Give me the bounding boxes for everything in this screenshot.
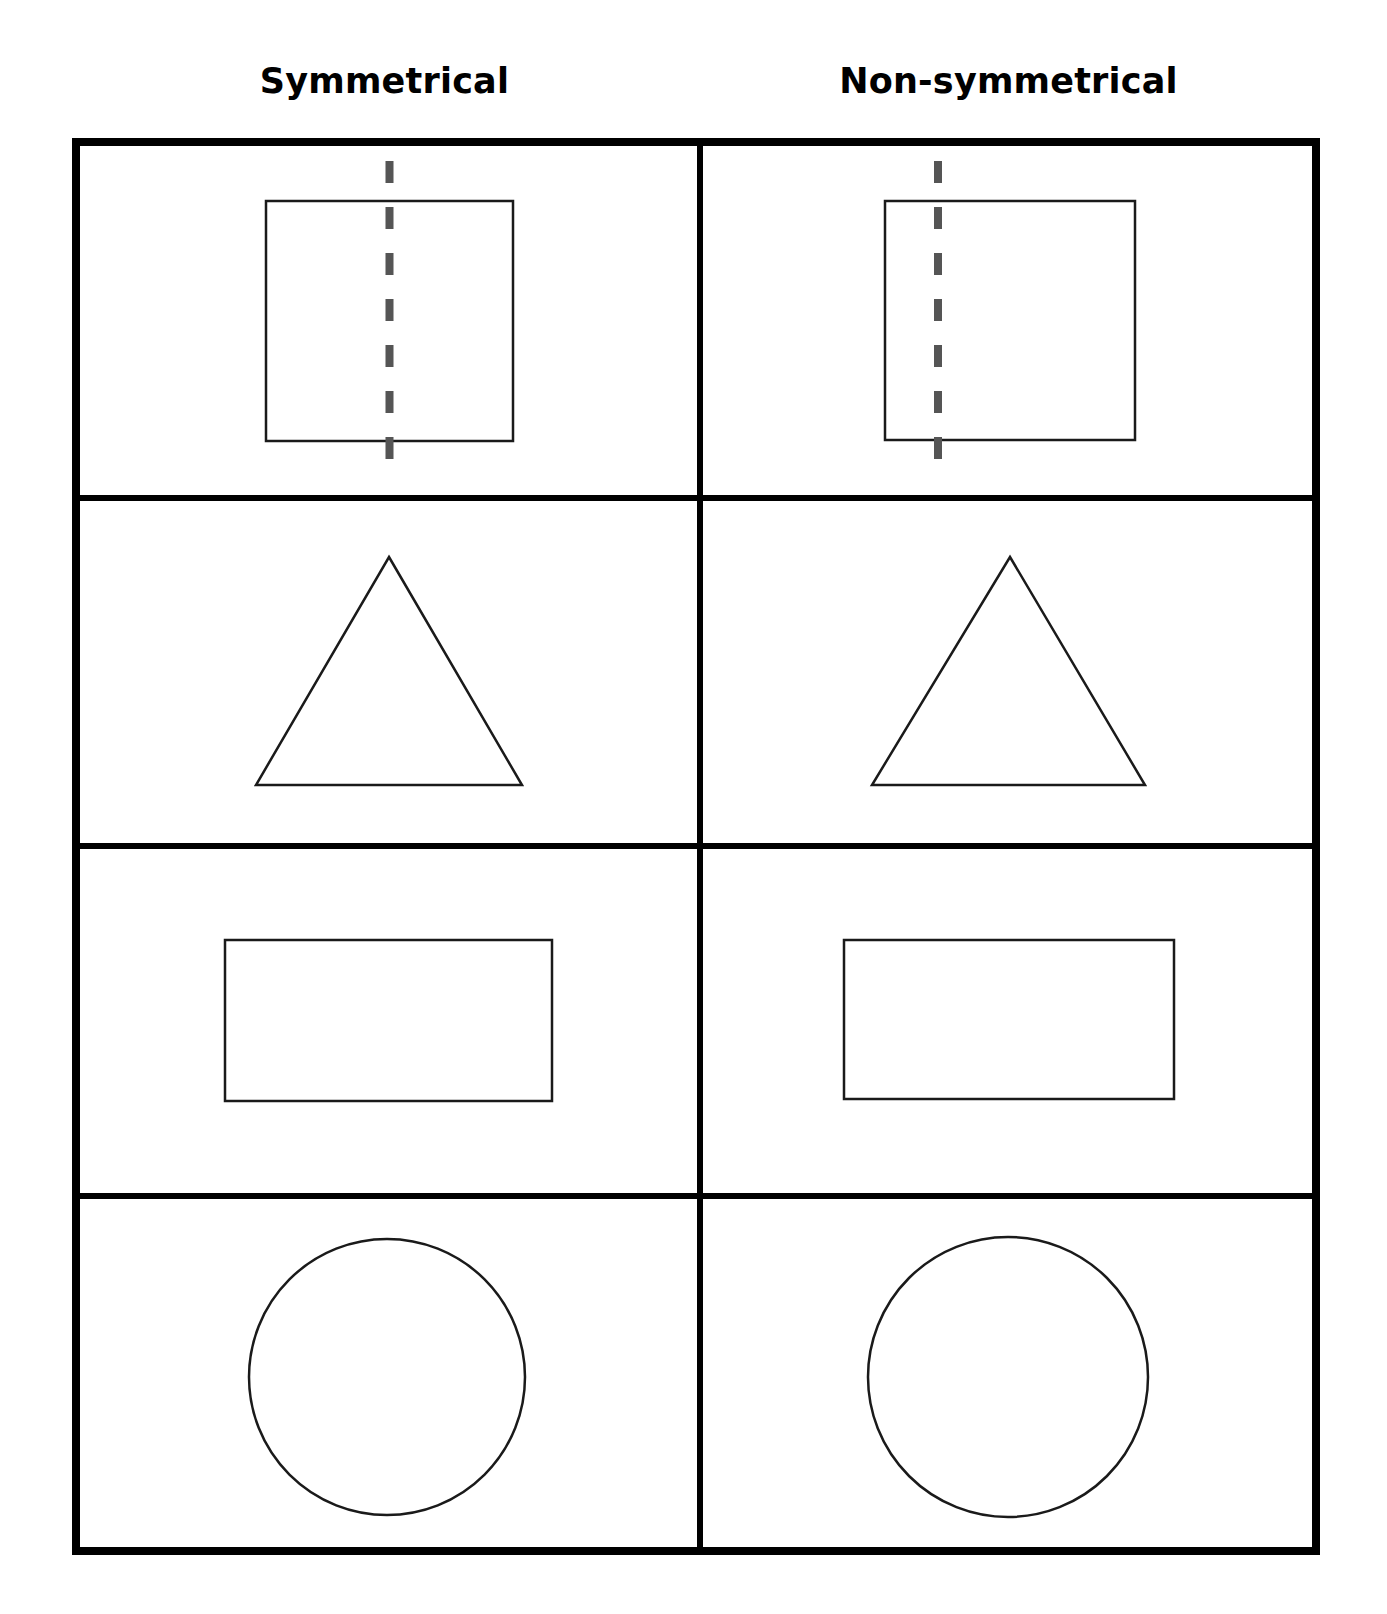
shape-circle-non-symmetrical-wrapper <box>858 1227 1158 1527</box>
triangle-icon <box>239 542 539 802</box>
triangle-icon <box>858 542 1158 802</box>
cell-row3-non-symmetrical[interactable] <box>703 849 1312 1193</box>
rectangle-icon <box>838 931 1178 1111</box>
cell-row4-non-symmetrical[interactable] <box>703 1199 1312 1555</box>
shape-rectangle-symmetrical-wrapper <box>219 931 559 1111</box>
shape-triangle-non-symmetrical-wrapper <box>858 542 1158 802</box>
shape-square-symmetrical-wrapper <box>224 156 554 486</box>
column-header-symmetrical-label: Symmetrical <box>260 61 509 101</box>
square-with-center-line-icon <box>224 156 554 486</box>
symmetry-worksheet: Symmetrical Non-symmetrical <box>0 0 1387 1614</box>
cell-row2-non-symmetrical[interactable] <box>703 501 1312 843</box>
cell-row1-non-symmetrical[interactable] <box>703 146 1312 495</box>
cell-row3-symmetrical[interactable] <box>80 849 697 1193</box>
column-header-non-symmetrical-label: Non-symmetrical <box>839 61 1177 101</box>
cell-row2-symmetrical[interactable] <box>80 501 697 843</box>
cell-row1-symmetrical[interactable] <box>80 146 697 495</box>
shape-circle-symmetrical-wrapper <box>239 1227 539 1527</box>
column-header-non-symmetrical: Non-symmetrical <box>697 46 1320 116</box>
shape-triangle-symmetrical-wrapper <box>239 542 539 802</box>
shape-square-non-symmetrical-wrapper <box>843 156 1173 486</box>
shape-rectangle-non-symmetrical-wrapper <box>838 931 1178 1111</box>
shape-grid <box>72 138 1320 1555</box>
column-header-symmetrical: Symmetrical <box>72 46 697 116</box>
rectangle-icon <box>219 931 559 1111</box>
circle-icon <box>239 1227 539 1527</box>
column-header-row: Symmetrical Non-symmetrical <box>72 46 1320 116</box>
cell-row4-symmetrical[interactable] <box>80 1199 697 1555</box>
square-with-offset-line-icon <box>843 156 1173 486</box>
circle-icon <box>858 1227 1158 1527</box>
